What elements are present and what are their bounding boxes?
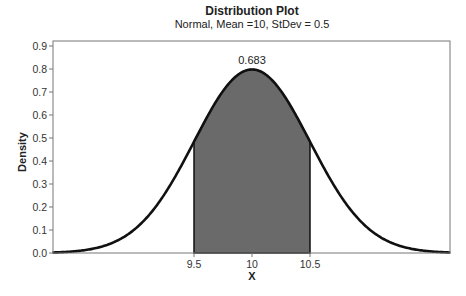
shaded-region — [194, 69, 310, 253]
y-tick-label: 0.0 — [32, 247, 47, 259]
shaded-area — [194, 69, 310, 253]
y-tick-label: 0.5 — [32, 132, 47, 144]
y-tick-label: 0.6 — [32, 109, 47, 121]
x-tick-label: 9.5 — [187, 258, 202, 270]
y-tick-label: 0.3 — [32, 178, 47, 190]
x-axis-title: X — [248, 270, 256, 282]
y-tick-label: 0.1 — [32, 224, 47, 236]
y-axis: 0.00.10.20.30.40.50.60.70.80.9 — [32, 40, 53, 259]
x-tick-label: 10.5 — [300, 258, 321, 270]
y-tick-label: 0.7 — [32, 86, 47, 98]
y-tick-label: 0.4 — [32, 155, 47, 167]
y-axis-title: Density — [16, 131, 28, 172]
shaded-area-label: 0.683 — [238, 54, 266, 66]
x-tick-label: 10 — [246, 258, 258, 270]
distribution-plot: 0.00.10.20.30.40.50.60.70.80.9 9.51010.5… — [0, 0, 466, 296]
y-tick-label: 0.9 — [32, 40, 47, 52]
y-tick-label: 0.2 — [32, 201, 47, 213]
x-axis: 9.51010.5 — [187, 253, 321, 270]
y-tick-label: 0.8 — [32, 63, 47, 75]
